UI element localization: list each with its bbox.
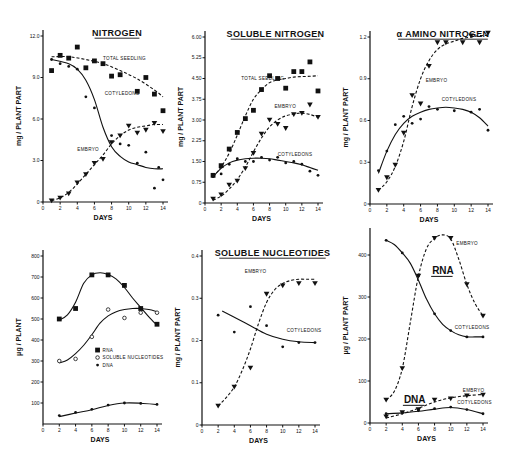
square-marker xyxy=(235,130,240,135)
x-axis-label: DAYS xyxy=(94,214,113,221)
triangle-marker xyxy=(243,166,249,171)
x-tick-label: 12 xyxy=(143,205,149,211)
square-marker xyxy=(118,72,123,77)
triangle-marker xyxy=(383,415,389,420)
dot-marker xyxy=(76,68,79,71)
y-tick-label: 400 xyxy=(358,252,367,258)
dot-marker xyxy=(123,402,126,405)
y-tick-label: 0.2 xyxy=(192,337,199,343)
x-tick-label: 2 xyxy=(385,426,388,432)
triangle-marker xyxy=(426,64,432,69)
x-tick-label: 8 xyxy=(433,426,436,432)
series-embryo: EMBRYO xyxy=(376,31,491,193)
triangle-marker xyxy=(100,157,106,162)
x-tick-label: 12 xyxy=(296,428,302,434)
triangle-marker xyxy=(234,179,240,184)
triangle-marker xyxy=(160,129,166,134)
dot-marker xyxy=(110,134,113,137)
dot-marker xyxy=(244,160,247,163)
triangle-marker xyxy=(418,102,424,107)
x-tick-label: 12 xyxy=(138,427,144,433)
dot-marker xyxy=(465,408,468,411)
square-marker xyxy=(152,92,157,97)
y-tick-label: 0.3 xyxy=(192,295,199,301)
y-tick-label: 5.25 xyxy=(192,54,202,60)
dot-marker xyxy=(281,345,284,348)
y-tick-label: 1.50 xyxy=(192,158,202,164)
y-tick-label: 100 xyxy=(358,378,367,384)
open-circle-marker xyxy=(96,356,100,360)
square-marker xyxy=(283,86,288,91)
y-tick-label: 0 xyxy=(364,420,367,426)
x-tick-label: 12 xyxy=(464,426,470,432)
square-marker xyxy=(109,74,114,79)
y-axis-label: mg / PLANT PART xyxy=(15,85,23,146)
square-marker xyxy=(101,61,106,66)
y-tick-label: 1.2 xyxy=(360,34,367,40)
dot-marker xyxy=(385,239,388,242)
chart-title: SOLUBLE NUCLEOTIDES xyxy=(215,248,331,258)
axes xyxy=(205,31,323,203)
series-total-seedling: TOTAL SEEDLING xyxy=(49,45,165,113)
triangle-marker xyxy=(283,126,289,131)
dot-marker xyxy=(93,107,96,110)
series-label: COTYLEDONS xyxy=(442,97,477,102)
series-label: TOTAL SEEDLING xyxy=(241,76,284,81)
dot-marker xyxy=(127,144,130,147)
x-tick-label: 12 xyxy=(468,207,474,213)
triangle-marker xyxy=(126,124,132,129)
triangle-marker xyxy=(435,40,441,45)
y-tick-label: 600 xyxy=(31,295,40,301)
series-label: COTYLEDONS xyxy=(455,325,490,330)
square-marker xyxy=(259,87,264,92)
triangle-marker xyxy=(259,132,265,137)
panel-soluble-nucleotides: 0246810121400.10.20.30.4DAYSmg / PLANT P… xyxy=(174,248,330,444)
dot-marker xyxy=(478,108,481,111)
triangle-marker xyxy=(134,131,140,136)
x-axis-label: DAYS xyxy=(91,436,110,443)
open-circle-marker xyxy=(106,308,110,312)
y-tick-label: 0 xyxy=(196,422,199,428)
y-axis-label: mg / PLANT PART xyxy=(174,307,182,368)
panel-nucleic-acids-total: 02468101214100200300400500600700800DAYSμ… xyxy=(15,250,163,443)
x-tick-label: 6 xyxy=(90,427,93,433)
dot-marker xyxy=(144,151,147,154)
dot-marker xyxy=(265,324,268,327)
x-tick-label: 14 xyxy=(485,207,491,213)
y-tick-label: 0 xyxy=(37,199,40,205)
panel-nitrogen: 0246810121403.06.09.012.0DAYSmg / PLANT … xyxy=(15,28,168,221)
dot-marker xyxy=(453,109,456,112)
dot-marker xyxy=(96,364,99,367)
y-tick-label: 200 xyxy=(31,379,40,385)
dot-marker xyxy=(233,331,236,334)
x-tick-label: 6 xyxy=(419,207,422,213)
triangle-marker xyxy=(480,314,486,319)
dot-marker xyxy=(417,275,420,278)
y-axis-label: mg / PLANT PART xyxy=(342,87,350,148)
dot-marker xyxy=(300,163,303,166)
dot-marker xyxy=(411,122,414,125)
axes xyxy=(370,31,493,204)
y-tick-label: 500 xyxy=(31,316,40,322)
x-tick-label: 10 xyxy=(448,426,454,432)
fit-curve xyxy=(222,311,315,343)
series-rna xyxy=(57,273,160,327)
x-tick-label: 14 xyxy=(480,426,486,432)
y-tick-label: 2.25 xyxy=(192,137,202,143)
open-circle-marker xyxy=(155,311,159,315)
x-axis-label: DAYS xyxy=(417,435,436,442)
dot-marker xyxy=(252,160,255,163)
square-marker xyxy=(57,317,62,322)
dot-marker xyxy=(107,404,110,407)
triangle-marker xyxy=(92,161,98,166)
square-marker xyxy=(243,116,248,121)
x-tick-label: 4 xyxy=(233,428,236,434)
series-embryo: EMBRYO xyxy=(49,121,166,203)
dot-marker xyxy=(162,178,165,181)
x-tick-label: 2 xyxy=(220,206,223,212)
dot-marker xyxy=(385,412,388,415)
y-tick-label: 0.9 xyxy=(360,75,367,81)
open-circle-marker xyxy=(90,335,94,339)
square-marker xyxy=(83,65,88,70)
open-circle-marker xyxy=(123,316,127,320)
